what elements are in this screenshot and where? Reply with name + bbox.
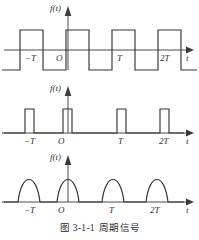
figure-caption-number: 图 3-1-1 <box>60 223 95 233</box>
periodic-signals-figure: −T O T 2T t f(t) −T O T 2T t f(t) <box>0 0 199 240</box>
x-axis-label: t <box>186 136 189 146</box>
y-axis-label: f(t) <box>50 152 61 162</box>
chart-rect-pulse-train: −T O T 2T t f(t) <box>0 78 199 148</box>
x-axis-label: t <box>186 53 189 63</box>
tick-label-T: T <box>117 53 123 63</box>
tick-label-minus-T: −T <box>24 136 36 146</box>
figure-caption-title: 周期信号 <box>99 223 140 233</box>
figure-caption: 图 3-1-1周期信号 <box>0 220 199 234</box>
tick-label-2T: 2T <box>160 53 171 63</box>
amplitude-axis-arrow-icon <box>65 86 72 96</box>
rect-pulse-trace <box>2 109 184 133</box>
tick-label-T: T <box>109 205 115 215</box>
tick-label-origin: O <box>56 53 63 63</box>
tick-label-2T: 2T <box>150 205 161 215</box>
tick-label-2T: 2T <box>159 136 170 146</box>
tick-label-origin: O <box>58 205 65 215</box>
tick-label-minus-T: −T <box>24 205 36 215</box>
tick-label-T: T <box>118 136 124 146</box>
amplitude-axis-arrow-icon <box>65 6 72 16</box>
amplitude-axis-arrow-icon <box>65 155 72 165</box>
chart-square-wave: −T O T 2T t f(t) <box>0 0 199 78</box>
y-axis-label: f(t) <box>50 83 61 93</box>
half-sine-trace <box>2 180 184 203</box>
rect-pulse-svg: −T O T 2T t f(t) <box>0 78 199 148</box>
y-axis-label: f(t) <box>50 3 61 13</box>
tick-label-minus-T: −T <box>25 53 37 63</box>
chart-half-sine-train: −T O T 2T t f(t) <box>0 148 199 220</box>
tick-label-origin: O <box>58 136 65 146</box>
x-axis-label: t <box>186 205 189 215</box>
half-sine-svg: −T O T 2T t f(t) <box>0 148 199 220</box>
square-wave-svg: −T O T 2T t f(t) <box>0 0 199 78</box>
